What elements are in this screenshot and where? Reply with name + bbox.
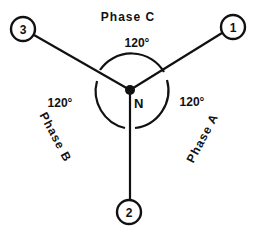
line-to-terminal-3 [34, 35, 130, 90]
terminal-2: 2 [117, 200, 141, 224]
arc-left-120 [96, 81, 125, 128]
terminal-3-label: 3 [20, 23, 27, 37]
phase-b-label: Phase B [37, 110, 75, 165]
angle-label-right: 120° [180, 95, 205, 109]
wye-diagram: N 3 1 2 120° 120° 120° Phase C Phase B P… [0, 0, 258, 241]
neutral-label: N [134, 96, 143, 111]
terminal-3: 3 [11, 17, 35, 41]
terminal-1: 1 [221, 15, 245, 39]
angle-label-top: 120° [125, 36, 150, 50]
arc-top-120 [100, 53, 164, 72]
phase-c-label: Phase C [101, 10, 155, 24]
terminal-1-label: 1 [230, 21, 237, 35]
neutral-node [125, 85, 135, 95]
phase-a-label: Phase A [184, 111, 222, 165]
terminal-2-label: 2 [126, 206, 133, 220]
angle-label-left: 120° [48, 96, 73, 110]
